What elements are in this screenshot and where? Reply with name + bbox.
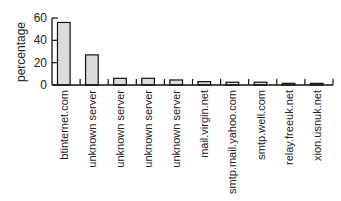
bar <box>142 78 155 85</box>
y-axis-ticks: 0204060 <box>34 11 58 92</box>
y-tick-label: 20 <box>34 56 48 70</box>
y-axis-title: percentage <box>14 22 28 82</box>
y-tick-label: 60 <box>34 11 48 25</box>
x-category-label: smtp.well.com <box>255 90 267 160</box>
y-tick-label: 40 <box>34 33 48 47</box>
x-category-label: unknown server <box>86 90 98 168</box>
x-category-label: smtp.mail.yahoo.com <box>226 90 238 194</box>
x-category-label: relay.freeuk.net <box>283 90 295 165</box>
x-category-label: unknown server <box>170 90 182 168</box>
x-category-label: unknown server <box>114 90 126 168</box>
bar <box>86 55 99 85</box>
x-axis-labels: btinternet.comunknown serverunknown serv… <box>58 90 323 194</box>
x-category-label: btinternet.com <box>58 90 70 160</box>
bar-chart: percentage 0204060 btinternet.comunknown… <box>0 0 341 201</box>
x-category-label: xion.usnuk.net <box>311 90 323 161</box>
bar <box>57 22 70 85</box>
bars <box>57 22 333 85</box>
x-category-label: mail.virgin.net <box>198 90 210 158</box>
bar <box>114 78 127 85</box>
x-category-label: unknown server <box>142 90 154 168</box>
bar <box>170 80 183 85</box>
y-tick-label: 0 <box>40 78 47 92</box>
